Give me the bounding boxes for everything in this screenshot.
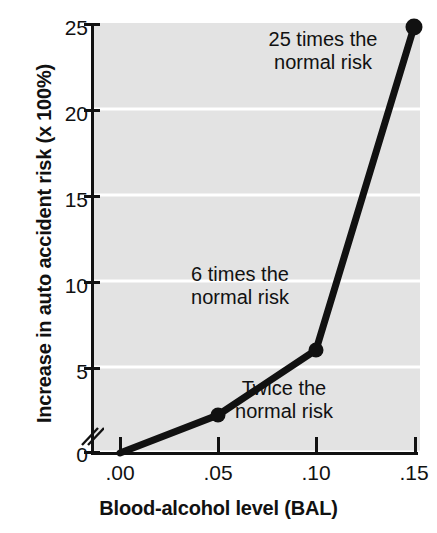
x-axis-spine — [91, 452, 418, 455]
y-tick-label-5: 5 — [44, 361, 88, 382]
annotation-6-times: 6 times the normal risk — [160, 263, 320, 309]
y-tick-label-20: 20 — [44, 103, 88, 124]
y-tick-label-10: 10 — [44, 275, 88, 296]
x-tick-mark-00 — [119, 437, 122, 453]
y-tick-mark-0 — [84, 451, 100, 454]
y-tick-mark-25 — [84, 23, 100, 26]
y-tick-mark-10 — [84, 281, 100, 284]
y-tick-mark-5 — [84, 367, 100, 370]
x-tick-label-10: .10 — [281, 462, 351, 483]
chart-figure: Increase in auto accident risk (x 100%) … — [0, 0, 437, 533]
data-point-marker — [309, 343, 324, 358]
x-tick-label-05: .05 — [183, 462, 253, 483]
x-tick-mark-10 — [315, 437, 318, 453]
y-tick-label-group: 25 20 15 10 5 0 — [44, 0, 88, 533]
x-tick-mark-15 — [414, 437, 417, 453]
y-tick-label-15: 15 — [44, 189, 88, 210]
data-markers — [211, 19, 423, 423]
y-tick-mark-15 — [84, 195, 100, 198]
annotation-25-times: 25 times the normal risk — [243, 28, 403, 74]
data-point-marker — [406, 19, 423, 36]
annotation-twice: Twice the normal risk — [204, 377, 364, 423]
y-tick-label-25: 25 — [44, 17, 88, 38]
y-axis-spine — [91, 23, 94, 455]
x-tick-label-15: .15 — [379, 462, 437, 483]
x-tick-mark-05 — [217, 437, 220, 453]
x-axis-title: Blood-alcohol level (BAL) — [0, 497, 437, 520]
x-tick-label-00: .00 — [85, 462, 155, 483]
y-tick-mark-20 — [84, 109, 100, 112]
axis-break-icon — [78, 423, 104, 451]
